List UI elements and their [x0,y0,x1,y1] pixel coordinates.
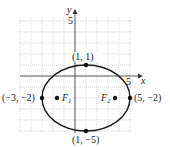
point-top [84,63,88,67]
focus-1 [55,96,59,100]
ellipse-plot: x y 5 5 (1, 1) (−3, −2) (5, −2) (1, −5) … [0,0,170,147]
x-axis-label: x [140,75,146,86]
label-top: (1, 1) [72,51,94,63]
label-bottom: (1, −5) [72,134,99,146]
y-tick-5: 5 [68,15,73,26]
point-right [128,96,132,100]
label-right: (5, −2) [134,92,161,104]
y-axis-arrow-icon [73,9,78,14]
y-axis-label: y [66,4,72,15]
focus-2 [113,96,117,100]
point-left [40,96,44,100]
axes: x y 5 5 [20,4,146,133]
label-left: (−3, −2) [2,92,35,104]
point-bottom [84,129,88,133]
grid [20,17,131,133]
